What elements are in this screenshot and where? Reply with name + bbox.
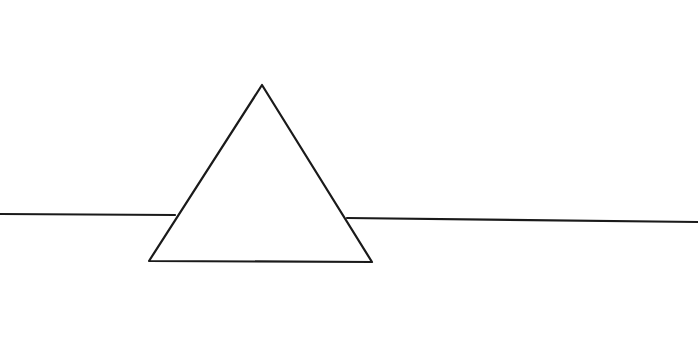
triangle-horizon-sketch: [0, 0, 698, 340]
horizon-line-left: [0, 214, 175, 215]
triangle-shape: [149, 85, 372, 262]
sketch-canvas: [0, 0, 698, 340]
horizon-line-right: [347, 218, 698, 222]
